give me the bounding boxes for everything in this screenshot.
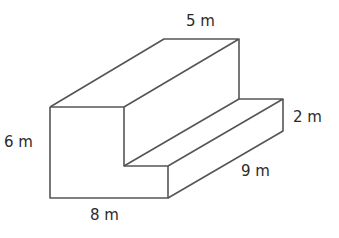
label-width: 8 m xyxy=(90,206,119,224)
top-face xyxy=(50,39,239,107)
label-length: 9 m xyxy=(241,162,270,180)
step-top-face xyxy=(124,99,283,166)
front-face xyxy=(50,107,168,198)
step-prism-figure xyxy=(0,0,339,238)
label-height: 6 m xyxy=(4,133,33,151)
label-step-height: 2 m xyxy=(293,108,322,126)
step-side-face xyxy=(168,99,283,198)
label-top-depth: 5 m xyxy=(186,12,215,30)
